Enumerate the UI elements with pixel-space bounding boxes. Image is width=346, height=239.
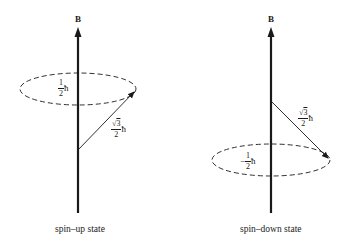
magnitude-label: √3 2 ħ xyxy=(111,120,126,139)
z-component-label: − 1 2 ħ xyxy=(240,152,256,171)
fraction: √3 2 xyxy=(111,120,121,139)
z-component-label: 1 2 ħ xyxy=(58,79,69,98)
spin-diagrams-svg xyxy=(0,0,346,239)
caption-spin-up: spin–up state xyxy=(55,224,105,234)
fraction: √3 2 xyxy=(298,109,308,128)
hbar-symbol: ħ xyxy=(251,156,256,166)
hbar-symbol: ħ xyxy=(64,83,69,93)
field-label-b: B xyxy=(75,14,81,24)
field-label-b: B xyxy=(268,14,274,24)
magnitude-label: √3 2 ħ xyxy=(298,109,313,128)
hbar-symbol: ħ xyxy=(121,124,126,134)
field-arrow-head xyxy=(75,27,82,37)
hbar-symbol: ħ xyxy=(308,113,313,123)
field-arrow-head xyxy=(268,27,275,37)
caption-spin-down: spin–down state xyxy=(240,224,301,234)
